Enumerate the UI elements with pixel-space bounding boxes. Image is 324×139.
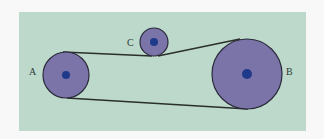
pulley-label-c: C [127,37,134,48]
pulley-a [43,52,89,98]
pulley-label-a: A [29,66,37,77]
pulley-hub-icon [62,71,70,79]
pulley-label-b: B [286,66,293,77]
pulley-hub-icon [242,69,252,79]
belt-segment-a-bottom-to-b-bottom [67,98,248,109]
pulley-b [212,39,282,109]
pulley-hub-icon [150,38,158,46]
belt-pulley-diagram: ACB [0,0,324,139]
pulley-c [140,28,168,56]
pulleys [43,28,282,109]
